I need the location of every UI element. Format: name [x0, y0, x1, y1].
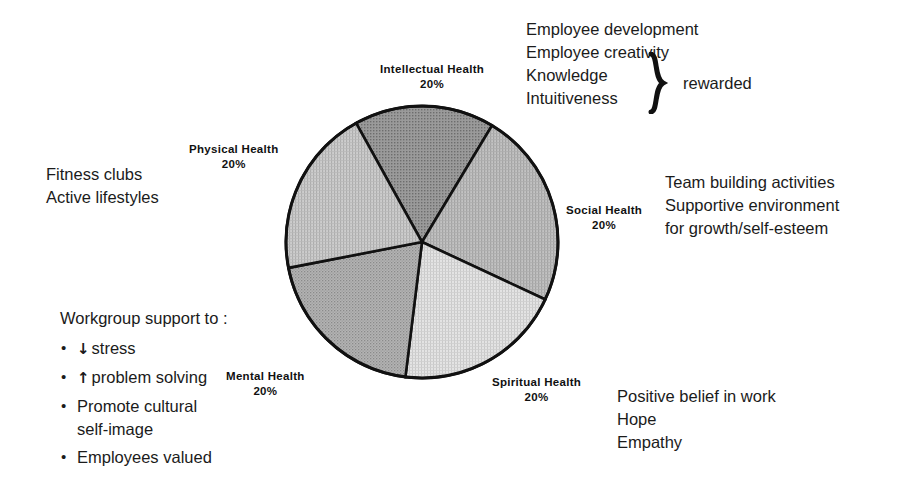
annotation-mental-heading: Workgroup support to :: [60, 307, 228, 330]
pie-label-physical-name: Physical Health: [189, 142, 279, 157]
up-arrow-icon: ↑: [77, 369, 90, 387]
pie-label-social-percent: 20%: [566, 218, 642, 233]
annotation-spiritual-line-3: Empathy: [617, 431, 776, 454]
annotation-mental: Workgroup support to : ↓stress ↑problem …: [60, 307, 228, 474]
pie-label-physical-percent: 20%: [189, 157, 279, 172]
annotation-social-line-2: Supportive environment: [665, 194, 839, 217]
pie-label-social: Social Health 20%: [566, 203, 642, 233]
list-item: Promote cultural self-image: [60, 395, 228, 441]
brace-group: rewarded: [645, 52, 805, 114]
pie-label-spiritual-percent: 20%: [492, 390, 581, 405]
annotation-mental-bullet-3: Promote cultural: [77, 397, 197, 415]
annotation-social-line-1: Team building activities: [665, 171, 839, 194]
pie-label-intellectual-percent: 20%: [380, 77, 484, 92]
annotation-social-line-3: for growth/self-esteem: [665, 217, 839, 240]
annotation-spiritual-line-2: Hope: [617, 408, 776, 431]
down-arrow-icon: ↓: [77, 340, 90, 358]
curly-brace-icon: [645, 52, 671, 114]
annotation-social: Team building activities Supportive envi…: [665, 171, 839, 240]
annotation-mental-bullet-2: problem solving: [92, 368, 208, 386]
annotation-mental-bullet-1: stress: [92, 339, 136, 357]
pie-label-spiritual-name: Spiritual Health: [492, 375, 581, 390]
list-item: ↓stress: [60, 337, 228, 361]
list-item: Employees valued: [60, 446, 228, 469]
annotation-spiritual-line-1: Positive belief in work: [617, 385, 776, 408]
pie-label-social-name: Social Health: [566, 203, 642, 218]
pie-label-mental-percent: 20%: [226, 384, 305, 399]
annotation-mental-bullet-4: Employees valued: [77, 448, 212, 466]
annotation-mental-bullet-3-sub: self-image: [77, 418, 228, 441]
annotation-physical: Fitness clubs Active lifestyles: [46, 163, 159, 209]
chart-canvas: Intellectual Health 20% Physical Health …: [0, 0, 902, 487]
annotation-physical-line-2: Active lifestyles: [46, 186, 159, 209]
annotation-spiritual: Positive belief in work Hope Empathy: [617, 385, 776, 454]
annotation-physical-line-1: Fitness clubs: [46, 163, 159, 186]
pie-label-intellectual-name: Intellectual Health: [380, 62, 484, 77]
pie-chart: [277, 97, 567, 387]
pie-label-mental-name: Mental Health: [226, 369, 305, 384]
list-item: ↑problem solving: [60, 366, 228, 390]
annotation-intellectual-result: rewarded: [683, 72, 752, 95]
pie-label-intellectual: Intellectual Health 20%: [380, 62, 484, 92]
pie-label-spiritual: Spiritual Health 20%: [492, 375, 581, 405]
pie-label-physical: Physical Health 20%: [189, 142, 279, 172]
pie-label-mental: Mental Health 20%: [226, 369, 305, 399]
annotation-intellectual-line-1: Employee development: [526, 18, 698, 41]
annotation-mental-list: ↓stress ↑problem solving Promote cultura…: [60, 337, 228, 469]
